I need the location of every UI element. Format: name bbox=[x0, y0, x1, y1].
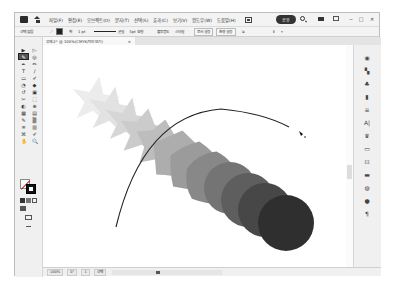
eyedropper-tool-icon[interactable]: ✎ bbox=[18, 116, 29, 123]
swatches-panel-icon[interactable]: ▮ bbox=[360, 90, 374, 103]
panel-dock: ◉ ▚ ♣ ▮ ≡ A| ♛ ▭ ⊡ ▬ ◍ ● ¶ bbox=[353, 45, 381, 267]
panel-icons: ◉ ▚ ♣ ▮ ≡ A| ♛ ▭ ⊡ ▬ ◍ ● ¶ bbox=[360, 51, 374, 220]
preferences-button[interactable]: 환경 설정 bbox=[216, 28, 235, 36]
menu-object[interactable]: 오브젝트(O) bbox=[87, 17, 110, 23]
close-tab-icon[interactable]: × bbox=[128, 39, 131, 44]
brush-point[interactable]: 5pt 원형 bbox=[130, 29, 144, 34]
fill-stroke-swatches[interactable] bbox=[20, 179, 38, 195]
document-setup-button[interactable]: 문서 설정 bbox=[194, 28, 213, 36]
direct-selection-tool-icon[interactable]: ▷ bbox=[29, 46, 40, 53]
layers-panel-icon[interactable]: ▚ bbox=[360, 64, 374, 77]
type-tool-icon[interactable]: T bbox=[18, 67, 29, 74]
image-trace-panel-icon[interactable]: ⊡ bbox=[360, 155, 374, 168]
share-button[interactable]: 공유 bbox=[276, 15, 296, 24]
gradient-tool-icon[interactable]: ▒ bbox=[29, 116, 40, 123]
stroke-label: 획 bbox=[69, 29, 72, 34]
menu-bar: 파일(F) 편집(E) 오브젝트(O) 문자(T) 선택(S) 효과(C) 보기… bbox=[15, 13, 379, 26]
align-panel-icon[interactable]: ▬ bbox=[360, 168, 374, 181]
line-tool-icon[interactable]: / bbox=[29, 67, 40, 74]
menu-effect[interactable]: 효과(C) bbox=[153, 17, 168, 23]
arrange-icon[interactable]: ⇲ bbox=[242, 29, 245, 34]
none-mode-icon[interactable] bbox=[32, 198, 37, 203]
minimize-button[interactable]: ─ bbox=[346, 14, 356, 24]
transparency-panel-icon[interactable]: ◍ bbox=[360, 181, 374, 194]
workspace-icon[interactable] bbox=[318, 17, 324, 21]
color-mode-icon[interactable] bbox=[20, 198, 25, 203]
mesh-tool-icon[interactable]: ▤ bbox=[29, 109, 40, 116]
menu-edit[interactable]: 편집(E) bbox=[68, 17, 82, 23]
menu-view[interactable]: 보기(V) bbox=[173, 17, 187, 23]
zoom-tool-icon[interactable]: 🔍 bbox=[29, 137, 40, 144]
artboard-tool-icon[interactable]: ⌘ bbox=[18, 130, 29, 137]
pen-tool-icon[interactable]: ✒ bbox=[18, 60, 29, 67]
symbols-panel-icon[interactable]: ♛ bbox=[360, 129, 374, 142]
menu-type[interactable]: 문자(T) bbox=[115, 17, 129, 23]
rectangle-tool-icon[interactable]: ▭ bbox=[18, 74, 29, 81]
close-button[interactable]: ✕ bbox=[367, 14, 377, 24]
perspective-grid-tool-icon[interactable]: ▦ bbox=[18, 109, 29, 116]
slice-tool-icon[interactable]: ✐ bbox=[29, 130, 40, 137]
brush-profile[interactable]: 균일 bbox=[118, 29, 124, 34]
brush-tool-icon[interactable]: ✏ bbox=[29, 60, 40, 67]
shaper-tool-icon[interactable]: ◔ bbox=[18, 81, 29, 88]
draw-mode-icon[interactable] bbox=[20, 206, 26, 211]
horizontal-scrollbar[interactable] bbox=[112, 270, 222, 275]
artboard-number[interactable]: 1 bbox=[81, 269, 89, 276]
app-logo-icon bbox=[20, 16, 28, 23]
fill-tool-icon[interactable]: ◆ bbox=[29, 81, 40, 88]
opacity-label[interactable]: 불투명도 bbox=[157, 29, 169, 34]
style-label[interactable]: 스타일 bbox=[175, 29, 184, 34]
current-tool-status[interactable]: 선택 bbox=[94, 269, 106, 276]
hand-tool-icon[interactable]: ✋ bbox=[18, 137, 29, 144]
stroke-profile[interactable] bbox=[94, 31, 116, 32]
paragraph-panel-icon[interactable]: ¶ bbox=[360, 207, 374, 220]
menu-file[interactable]: 파일(F) bbox=[49, 17, 63, 23]
panel-layout-icon[interactable] bbox=[333, 16, 339, 21]
arrange-documents-icon[interactable] bbox=[245, 17, 252, 23]
scissors-tool-icon[interactable]: ✂ bbox=[18, 95, 29, 102]
share-label: 공유 bbox=[282, 17, 290, 23]
maximize-button[interactable]: □ bbox=[356, 14, 366, 24]
stroke-weight[interactable]: 1 pt bbox=[78, 29, 86, 34]
rotation-angle[interactable]: 0° bbox=[67, 269, 77, 276]
artboard-canvas[interactable] bbox=[43, 45, 353, 267]
menu-window[interactable]: 윈도우(W) bbox=[192, 17, 212, 23]
fill-swatch[interactable] bbox=[56, 28, 63, 35]
appearance-panel-icon[interactable]: ● bbox=[360, 194, 374, 207]
libraries-panel-icon[interactable]: ♣ bbox=[360, 77, 374, 90]
menu-help[interactable]: 도움말(H) bbox=[217, 17, 236, 23]
pen-icon[interactable]: ⟋ bbox=[50, 29, 53, 34]
document-tab[interactable]: 무제-2* @ 100%(CMYK/미리 보기) × bbox=[43, 37, 135, 45]
vertical-scrollbar[interactable] bbox=[346, 45, 353, 267]
blend-steps bbox=[68, 72, 314, 251]
menu-select[interactable]: 선택(S) bbox=[134, 17, 148, 23]
shape-builder-tool-icon[interactable]: ◐ bbox=[18, 102, 29, 109]
edit-toolbar-icon[interactable] bbox=[26, 226, 31, 227]
gradient-panel-icon[interactable]: ▭ bbox=[360, 142, 374, 155]
app-window: 파일(F) 편집(E) 오브젝트(O) 문자(T) 선택(S) 효과(C) 보기… bbox=[14, 12, 380, 276]
rotate-tool-icon[interactable]: ↺ bbox=[18, 88, 29, 95]
cursor-icon bbox=[299, 131, 306, 138]
scale-tool-icon[interactable]: ▣ bbox=[29, 88, 40, 95]
stroke-panel-icon[interactable]: ≡ bbox=[360, 103, 374, 116]
blend-artwork bbox=[43, 45, 353, 267]
blob-tool-icon[interactable]: ◎ bbox=[29, 53, 40, 60]
eraser-tool-icon[interactable]: ✐ bbox=[29, 74, 40, 81]
symbol-sprayer-tool-icon[interactable]: ≡ bbox=[18, 123, 29, 130]
free-transform-tool-icon[interactable]: ⬚ bbox=[29, 95, 40, 102]
live-paint-tool-icon[interactable]: ⊕ bbox=[29, 102, 40, 109]
stroke-swatch[interactable] bbox=[26, 184, 36, 194]
gradient-mode-icon[interactable] bbox=[26, 198, 31, 203]
search-icon[interactable] bbox=[300, 16, 305, 21]
selection-tool-icon[interactable]: ▶ bbox=[18, 46, 29, 53]
align-icon[interactable]: ⫴ bbox=[273, 29, 275, 34]
zoom-level[interactable]: 100% bbox=[47, 269, 63, 276]
pencil-tool-icon[interactable]: ✎ bbox=[18, 53, 29, 60]
home-icon[interactable] bbox=[34, 16, 41, 23]
menu-more-icon[interactable]: » bbox=[281, 29, 283, 34]
screen-mode-icon[interactable] bbox=[25, 215, 32, 220]
properties-panel-icon[interactable]: ◉ bbox=[360, 51, 374, 64]
graph-tool-icon[interactable]: ▥ bbox=[29, 123, 40, 130]
character-panel-icon[interactable]: A| bbox=[360, 116, 374, 129]
vertical-scroll-thumb[interactable] bbox=[347, 165, 352, 179]
